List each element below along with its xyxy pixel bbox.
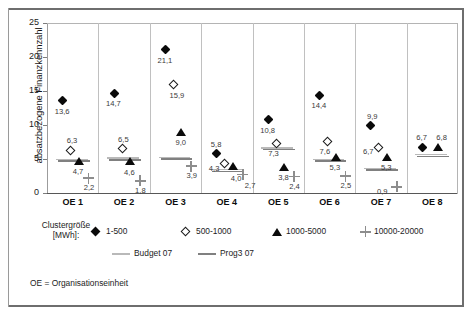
marker-filled-diamond: [109, 88, 119, 98]
y-tick-label: 20: [17, 52, 39, 61]
marker-filled-triangle: [382, 153, 392, 161]
x-axis-line: [47, 193, 458, 194]
vertical-gridline: [201, 23, 202, 193]
data-point-label: 3,9: [186, 172, 197, 180]
legend-item-10000-20000[interactable]: 10000-20000: [360, 226, 423, 237]
y-axis-line: [47, 23, 48, 194]
marker-open-diamond: [117, 144, 127, 154]
y-tick-label: 0: [17, 188, 39, 197]
frame-border-bottom: [8, 305, 464, 307]
data-point-label: 7,3: [268, 150, 279, 158]
legend-item-label: 1-500: [106, 226, 127, 236]
y-tick-mark: [43, 57, 47, 58]
data-point-label: 14,7: [106, 100, 121, 108]
marker-filled-diamond: [58, 96, 68, 106]
data-point-label: 5,3: [381, 164, 392, 172]
data-point-label: 15,9: [169, 92, 184, 100]
legend-line-swatch: [112, 253, 130, 255]
marker-filled-diamond: [263, 115, 273, 125]
data-point-label: 4,7: [73, 168, 84, 176]
legend-item-label: 10000-20000: [374, 226, 423, 236]
data-point-label: 2,4: [289, 183, 300, 191]
legend-item-500-1000[interactable]: 500-1000: [182, 226, 231, 236]
data-point-label: 6,7: [363, 148, 374, 156]
marker-open-diamond: [168, 80, 178, 90]
marker-filled-triangle: [176, 128, 186, 136]
marker-filled-diamond: [366, 121, 376, 131]
data-point-label: 5,8: [211, 141, 222, 149]
vertical-gridline: [355, 23, 356, 193]
legend-filled-diamond-icon: [91, 227, 101, 237]
data-point-label: 9,0: [175, 139, 186, 147]
vertical-gridline: [98, 23, 99, 193]
footnote: OE = Organisationseinheit: [30, 278, 128, 288]
legend-plus-icon: [360, 226, 371, 237]
y-tick-label: 10: [17, 120, 39, 129]
data-point-label: 10,8: [260, 127, 275, 135]
marker-filled-triangle: [228, 162, 238, 170]
marker-filled-diamond: [315, 90, 325, 100]
legend-item-1000-5000[interactable]: 1000-5000: [272, 226, 326, 236]
y-tick-label: 15: [17, 86, 39, 95]
vertical-gridline: [253, 23, 254, 193]
x-tick-label: OE 8: [402, 197, 462, 207]
legend-line-Budget-07[interactable]: Budget 07: [112, 248, 172, 258]
data-point-label: 6,8: [436, 134, 447, 142]
legend-line-label: Budget 07: [134, 248, 172, 258]
data-point-label: 6,3: [67, 137, 78, 145]
data-point-label: 13,6: [55, 108, 70, 116]
marker-filled-triangle: [125, 157, 135, 165]
y-tick-label: 5: [17, 154, 39, 163]
frame-border-top: [8, 8, 464, 10]
y-tick-label: 25: [17, 18, 39, 27]
data-point-label: 1,8: [135, 187, 146, 195]
data-point-label: 5,3: [330, 164, 341, 172]
vertical-gridline: [407, 23, 408, 193]
marker-plus: [186, 161, 197, 172]
legend-item-label: 1000-5000: [286, 226, 326, 236]
y-tick-mark: [43, 159, 47, 160]
data-point-label: 21,1: [157, 57, 172, 65]
data-point-label: 14,4: [312, 102, 327, 110]
data-point-label: 6,5: [118, 136, 129, 144]
marker-filled-triangle: [279, 163, 289, 171]
marker-filled-diamond: [417, 142, 427, 152]
data-point-label: 4,6: [124, 169, 135, 177]
marker-plus: [391, 181, 402, 192]
data-point-label: 9,9: [367, 113, 378, 121]
marker-plus: [237, 169, 248, 180]
y-tick-mark: [43, 91, 47, 92]
marker-plus: [135, 175, 146, 186]
data-point-label: 7,6: [320, 148, 331, 156]
marker-plus: [83, 173, 94, 184]
y-tick-mark: [43, 23, 47, 24]
marker-plus: [340, 171, 351, 182]
marker-filled-triangle: [331, 153, 341, 161]
legend-line-label: Prog3 07: [220, 248, 254, 258]
marker-open-diamond: [323, 136, 333, 146]
legend-item-label: 500-1000: [196, 226, 231, 236]
legend-open-diamond-icon: [181, 227, 191, 237]
legend-item-1-500[interactable]: 1-500: [92, 226, 127, 236]
legend-line-swatch: [198, 253, 216, 255]
data-point-label: 2,7: [245, 182, 256, 190]
y-tick-mark: [43, 125, 47, 126]
legend-filled-triangle-icon: [272, 228, 282, 236]
plot-border-right: [457, 23, 458, 194]
frame-border-right: [462, 8, 464, 307]
marker-filled-triangle: [433, 143, 443, 151]
legend-line-Prog3-07[interactable]: Prog3 07: [198, 248, 254, 258]
y-tick-mark: [43, 193, 47, 194]
marker-open-diamond: [66, 145, 76, 155]
data-point-label: 0,9: [377, 188, 388, 196]
vertical-gridline: [150, 23, 151, 193]
data-point-label: 6,7: [416, 134, 427, 142]
prog-line-segment: [417, 156, 449, 158]
marker-filled-triangle: [74, 157, 84, 165]
prog-line-segment: [161, 158, 193, 160]
data-point-label: 4,3: [209, 165, 220, 173]
vertical-gridline: [304, 23, 305, 193]
marker-plus: [289, 171, 300, 182]
marker-filled-diamond: [160, 45, 170, 55]
figure-frame: absatzbezogene Finanzkennzahl 0510152025…: [0, 0, 473, 316]
